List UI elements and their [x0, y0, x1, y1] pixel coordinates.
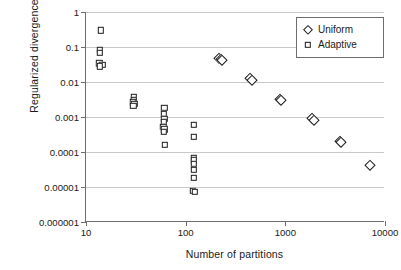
data-point-adaptive — [160, 129, 166, 135]
data-point-uniform — [336, 137, 347, 148]
y-tick-label: 0.0001 — [50, 147, 79, 158]
data-point-adaptive — [130, 99, 136, 105]
y-tick — [81, 152, 86, 153]
y-tick-label: 0.001 — [55, 112, 79, 123]
data-point-adaptive — [161, 104, 167, 110]
legend-item-uniform: Uniform — [303, 22, 378, 37]
data-point-uniform — [274, 93, 285, 104]
y-tick — [81, 82, 86, 83]
x-tick — [86, 221, 87, 226]
data-point-adaptive — [190, 167, 196, 173]
data-point-adaptive — [130, 94, 136, 100]
data-point-uniform — [275, 95, 286, 106]
y-tick-label: 0.00001 — [44, 182, 79, 193]
y-tick-label: 0.01 — [60, 77, 79, 88]
data-point-adaptive — [130, 103, 136, 109]
x-tick-label: 10 — [81, 227, 92, 238]
gridline — [86, 187, 384, 188]
data-point-uniform — [307, 113, 318, 124]
data-point-uniform — [217, 54, 228, 65]
y-axis-label: Regularized divergence — [28, 0, 40, 146]
data-point-adaptive — [192, 188, 198, 194]
gridline — [86, 82, 384, 83]
data-point-uniform — [247, 75, 258, 86]
data-point-adaptive — [191, 122, 197, 128]
data-point-adaptive — [130, 97, 136, 103]
data-point-adaptive — [190, 174, 196, 180]
data-point-uniform — [335, 135, 346, 146]
y-tick — [81, 187, 86, 188]
data-point-adaptive — [97, 50, 103, 56]
data-point-adaptive — [190, 188, 196, 194]
square-marker-icon — [303, 40, 312, 49]
legend-label-uniform: Uniform — [318, 24, 353, 35]
legend-label-adaptive: Adaptive — [318, 39, 357, 50]
data-point-adaptive — [160, 110, 166, 116]
data-point-adaptive — [99, 62, 105, 68]
y-tick-label: 0.000001 — [39, 217, 79, 228]
data-point-adaptive — [97, 27, 103, 33]
data-point-adaptive — [190, 155, 196, 161]
data-point-uniform — [213, 52, 224, 63]
gridline — [86, 152, 384, 153]
x-tick — [385, 221, 386, 226]
data-point-adaptive — [131, 100, 137, 106]
x-tick-label: 1000 — [275, 227, 296, 238]
data-point-adaptive — [97, 63, 103, 69]
data-point-adaptive — [162, 142, 168, 148]
x-tick-label: 10000 — [372, 227, 399, 238]
y-tick-label: 1 — [74, 7, 79, 18]
y-tick — [81, 117, 86, 118]
x-tick — [186, 221, 187, 226]
data-point-adaptive — [161, 119, 167, 125]
chart-legend: Uniform Adaptive — [296, 17, 384, 58]
data-point-adaptive — [190, 157, 196, 163]
x-tick-label: 100 — [178, 227, 194, 238]
data-point-adaptive — [190, 161, 196, 167]
data-point-adaptive — [160, 124, 166, 130]
data-point-uniform — [364, 160, 375, 171]
y-tick — [81, 12, 86, 13]
diamond-marker-icon — [303, 25, 312, 34]
x-tick — [285, 221, 286, 226]
y-tick — [81, 47, 86, 48]
data-point-adaptive — [96, 60, 102, 66]
data-point-adaptive — [161, 126, 167, 132]
data-point-uniform — [216, 53, 227, 64]
data-point-adaptive — [191, 134, 197, 140]
x-axis-label: Number of partitions — [85, 248, 384, 260]
gridline — [86, 12, 384, 13]
gridline — [86, 117, 384, 118]
legend-item-adaptive: Adaptive — [303, 37, 378, 52]
y-tick-label: 0.1 — [66, 42, 79, 53]
chart-figure: Regularized divergence Number of partiti… — [0, 0, 401, 270]
